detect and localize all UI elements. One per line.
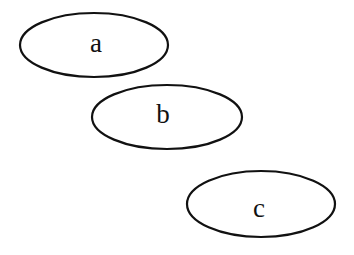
- node-c: c: [187, 171, 335, 237]
- node-b: b: [92, 85, 242, 149]
- node-a: a: [20, 13, 168, 77]
- node-a-label: a: [90, 28, 102, 58]
- node-c-label: c: [253, 193, 265, 223]
- diagram-canvas: a b c: [0, 0, 354, 255]
- node-b-label: b: [156, 99, 170, 129]
